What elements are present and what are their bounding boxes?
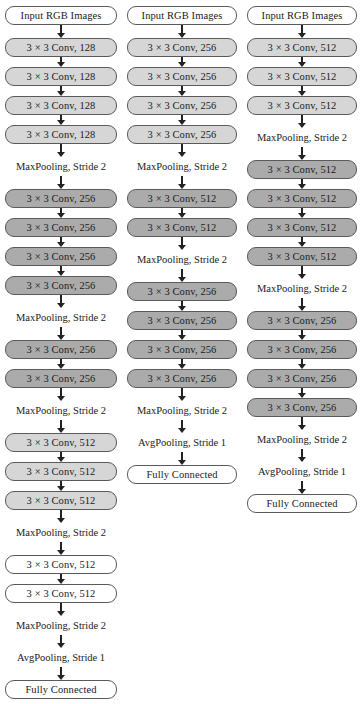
arrow-head-icon (178, 335, 186, 340)
layer-node: 3 × 3 Conv, 256 (247, 311, 357, 330)
arrow-head-icon (178, 428, 186, 433)
arrow-head-icon (298, 155, 306, 160)
arrow-head-icon (57, 303, 65, 308)
layer-node: Input RGB Images (127, 6, 237, 25)
layer-node: 3 × 3 Conv, 128 (5, 38, 117, 57)
arrow-head-icon (57, 91, 65, 96)
flow-arrow (177, 115, 188, 125)
flow-arrow (56, 208, 67, 218)
arrow-head-icon (298, 62, 306, 67)
arrow-head-icon (178, 460, 186, 465)
pooling-label: MaxPooling, Stride 2 (257, 128, 347, 147)
pooling-label: MaxPooling, Stride 2 (16, 401, 106, 420)
layer-node: 3 × 3 Conv, 256 (127, 96, 237, 115)
flow-arrow (56, 144, 67, 157)
layer-node: 3 × 3 Conv, 256 (127, 369, 237, 388)
flow-arrow (177, 330, 188, 340)
layer-node: 3 × 3 Conv, 256 (127, 125, 237, 144)
pooling-label: AvgPooling, Stride 1 (17, 648, 105, 667)
flow-arrow (297, 481, 308, 494)
flow-arrow (297, 449, 308, 462)
arrow-head-icon (57, 62, 65, 67)
flow-arrow (177, 388, 188, 401)
pooling-label: MaxPooling, Stride 2 (16, 616, 106, 635)
flow-arrow (56, 481, 67, 491)
flow-arrow (297, 147, 308, 160)
layer-node: 3 × 3 Conv, 512 (5, 462, 117, 481)
arrow-head-icon (57, 643, 65, 648)
flow-arrow (297, 359, 308, 369)
arrow-head-icon (57, 242, 65, 247)
pipeline-column-2: Input RGB Images3 × 3 Conv, 2563 × 3 Con… (122, 0, 242, 484)
arrow-head-icon (178, 120, 186, 125)
flow-arrow (56, 510, 67, 523)
arrow-head-icon (298, 425, 306, 430)
pooling-label: MaxPooling, Stride 2 (137, 250, 227, 269)
flow-arrow (177, 237, 188, 250)
flow-arrow (56, 359, 67, 369)
layer-node: 3 × 3 Conv, 128 (5, 125, 117, 144)
arrow-head-icon (57, 120, 65, 125)
layer-node: Fully Connected (247, 494, 357, 513)
arrow-head-icon (57, 550, 65, 555)
arrow-head-icon (57, 428, 65, 433)
flow-arrow (56, 295, 67, 308)
flow-arrow (297, 388, 308, 398)
pipeline-column-3: Input RGB Images3 × 3 Conv, 5123 × 3 Con… (242, 0, 362, 513)
flow-arrow (177, 301, 188, 311)
layer-node: 3 × 3 Conv, 128 (5, 67, 117, 86)
arrow-head-icon (178, 364, 186, 369)
layer-node: 3 × 3 Conv, 512 (247, 160, 357, 179)
arrow-head-icon (178, 396, 186, 401)
layer-node: Input RGB Images (5, 6, 117, 25)
network-architecture-diagram: Input RGB Images3 × 3 Conv, 1283 × 3 Con… (0, 0, 362, 704)
pooling-label: AvgPooling, Stride 1 (138, 433, 226, 452)
layer-node: 3 × 3 Conv, 512 (247, 218, 357, 237)
flow-arrow (56, 57, 67, 67)
flow-arrow (56, 266, 67, 276)
arrow-head-icon (57, 213, 65, 218)
pooling-label: MaxPooling, Stride 2 (137, 401, 227, 420)
flow-arrow (177, 269, 188, 282)
pooling-label: AvgPooling, Stride 1 (258, 462, 346, 481)
arrow-head-icon (57, 364, 65, 369)
layer-node: 3 × 3 Conv, 512 (247, 189, 357, 208)
arrow-head-icon (298, 393, 306, 398)
layer-node: 3 × 3 Conv, 256 (247, 398, 357, 417)
layer-node: Fully Connected (127, 465, 237, 484)
flow-arrow (297, 57, 308, 67)
layer-node: 3 × 3 Conv, 512 (5, 433, 117, 452)
arrow-head-icon (298, 33, 306, 38)
flow-arrow (56, 115, 67, 125)
flow-arrow (56, 635, 67, 648)
arrow-head-icon (298, 242, 306, 247)
arrow-head-icon (178, 245, 186, 250)
layer-node: 3 × 3 Conv, 256 (127, 311, 237, 330)
arrow-head-icon (57, 271, 65, 276)
layer-node: 3 × 3 Conv, 256 (5, 247, 117, 266)
arrow-head-icon (298, 364, 306, 369)
layer-node: 3 × 3 Conv, 512 (5, 584, 117, 603)
layer-node: 3 × 3 Conv, 256 (127, 67, 237, 86)
arrow-head-icon (178, 33, 186, 38)
layer-node: Fully Connected (5, 680, 117, 699)
flow-arrow (297, 208, 308, 218)
arrow-head-icon (178, 277, 186, 282)
flow-arrow (56, 574, 67, 584)
arrow-head-icon (178, 62, 186, 67)
arrow-head-icon (298, 489, 306, 494)
arrow-head-icon (298, 306, 306, 311)
arrow-head-icon (298, 123, 306, 128)
pooling-label: MaxPooling, Stride 2 (16, 157, 106, 176)
arrow-head-icon (298, 184, 306, 189)
flow-arrow (56, 327, 67, 340)
flow-arrow (56, 667, 67, 680)
arrow-head-icon (57, 33, 65, 38)
flow-arrow (297, 115, 308, 128)
arrow-head-icon (57, 675, 65, 680)
arrow-head-icon (178, 306, 186, 311)
arrow-head-icon (57, 396, 65, 401)
layer-node: 3 × 3 Conv, 512 (247, 247, 357, 266)
flow-arrow (297, 330, 308, 340)
flow-arrow (56, 25, 67, 38)
